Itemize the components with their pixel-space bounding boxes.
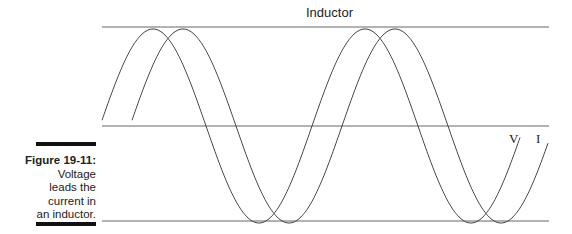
caption-bottom-bar [36,222,96,226]
caption-line: an inductor. [20,208,96,222]
current-label: I [536,131,540,147]
voltage-label: V [509,131,518,147]
caption-line: Voltage [20,168,96,182]
figure-caption: Figure 19-11: Voltage leads the current … [20,154,96,222]
caption-line: current in [20,195,96,209]
caption-line: leads the [20,181,96,195]
figure-label: Figure 19-11: [20,154,96,168]
caption-top-bar [36,142,96,146]
diagram-title: Inductor [306,5,353,20]
